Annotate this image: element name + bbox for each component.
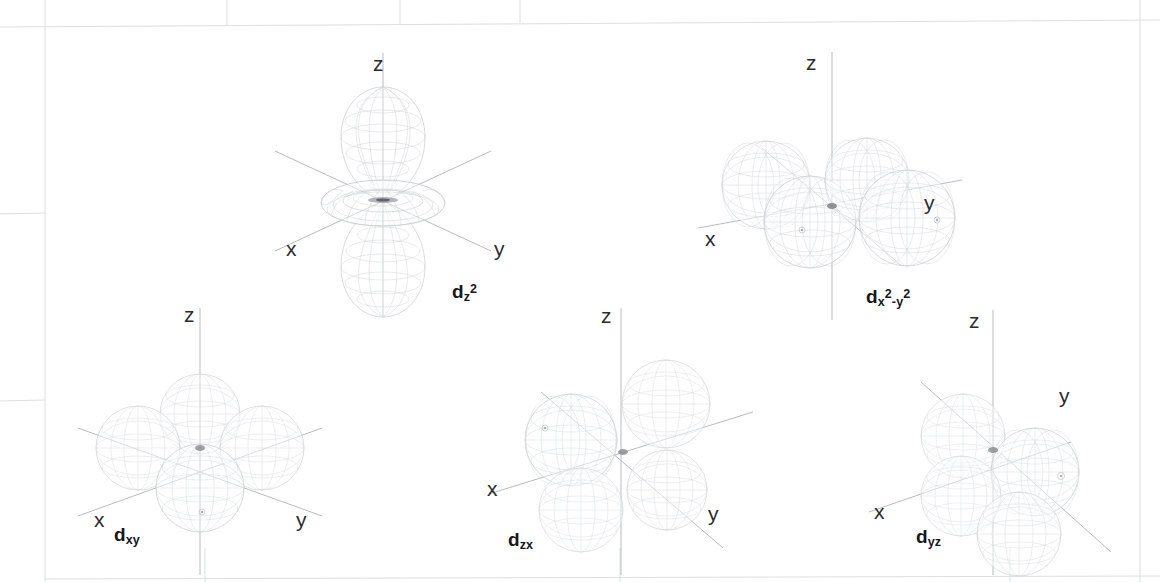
dzx-axis-label-x: x [487, 478, 498, 499]
dz2-torus [321, 180, 445, 226]
dyz-axis-label-y: y [1059, 385, 1070, 406]
dx2-y2-lobes [722, 138, 955, 268]
dx2-y2-axis-label-z: z [806, 52, 817, 73]
dzx-axis-label-z: z [601, 305, 612, 326]
dzx-lobes [525, 360, 710, 552]
orbital-label-dzx: dzx [508, 530, 533, 551]
dz2-axis-label-x: x [286, 238, 297, 259]
dxy-axis-label-z: z [184, 304, 195, 325]
orbital-dyz [843, 300, 1160, 582]
dz2-axis-label-z: z [373, 53, 384, 74]
orbital-figure-page: z x y dz2 [0, 0, 1160, 582]
dxy-axis-label-x: x [94, 509, 105, 530]
orbital-label-dyz: dyz [916, 527, 941, 548]
dx2-y2-axis-label-x: x [705, 228, 716, 249]
orbital-dz2 [183, 1, 583, 321]
dzx-axis-label-y: y [708, 503, 719, 524]
orbital-label-dxy: dxy [114, 525, 140, 546]
dx2-y2-axis-label-y: y [924, 192, 935, 213]
dxy-axis-label-y: y [296, 509, 307, 530]
orbital-dxy [40, 300, 380, 582]
dyz-axis-label-x: x [874, 501, 885, 522]
dxy-lobes [96, 374, 304, 532]
dyz-lobes [921, 394, 1079, 576]
orbital-dx2-y2 [662, 20, 1022, 330]
dz2-axis-label-y: y [494, 238, 505, 259]
dyz-axis-label-z: z [969, 310, 980, 331]
